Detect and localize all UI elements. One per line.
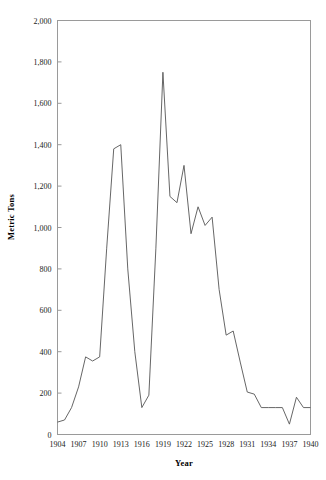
x-axis-ticks: 1904190719101913191619191922192519281931… [50,440,319,449]
x-axis-title: Year [57,458,311,468]
x-tick-label: 1925 [197,440,213,449]
x-tick-label: 1904 [50,440,66,449]
line-chart-plot: 02004006008001,0001,2001,4001,6001,8002,… [0,0,326,480]
x-tick-label: 1907 [71,440,87,449]
y-tick-label: 1,800 [34,58,52,67]
y-tick-label: 1,600 [34,99,52,108]
x-tick-label: 1931 [239,440,255,449]
y-tick-label: 0 [48,431,52,440]
x-tick-label: 1913 [113,440,129,449]
y-tick-label: 800 [40,265,52,274]
x-tick-label: 1937 [281,440,297,449]
y-axis-title: Metric Tons [2,0,20,434]
x-tick-label: 1916 [134,440,150,449]
x-tick-label: 1934 [260,440,276,449]
y-tick-label: 200 [40,389,52,398]
y-tick-label: 400 [40,348,52,357]
y-tick-label: 1,200 [34,182,52,191]
y-tick-label: 2,000 [34,17,52,26]
plot-frame [58,21,311,435]
chart-figure: Metric Tons 02004006008001,0001,2001,400… [0,0,326,480]
x-axis-title-text: Year [175,458,193,468]
x-tick-label: 1922 [176,440,192,449]
x-tick-label: 1910 [92,440,108,449]
x-tick-label: 1928 [218,440,234,449]
y-axis-title-text: Metric Tons [6,194,16,240]
y-tick-label: 600 [40,306,52,315]
x-tick-label: 1919 [155,440,171,449]
y-tick-label: 1,400 [34,141,52,150]
y-tick-label: 1,000 [34,224,52,233]
x-tick-label: 1940 [303,440,319,449]
data-series-line [58,72,311,424]
